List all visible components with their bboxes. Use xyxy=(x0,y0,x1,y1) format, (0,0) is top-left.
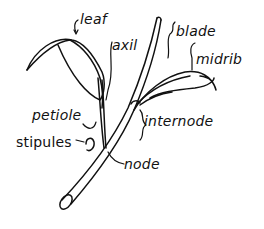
label-node: node xyxy=(124,157,160,171)
label-axil: axil xyxy=(112,38,137,52)
label-petiole: petiole xyxy=(32,108,81,122)
right-leaf xyxy=(131,72,216,110)
label-internode: internode xyxy=(144,114,213,128)
label-leaf: leaf xyxy=(80,12,107,26)
label-blade: blade xyxy=(176,24,216,38)
left-leaf xyxy=(27,39,106,148)
label-stipules: stipules xyxy=(16,135,72,149)
label-midrib: midrib xyxy=(196,52,242,66)
stipules-shape xyxy=(86,138,94,150)
